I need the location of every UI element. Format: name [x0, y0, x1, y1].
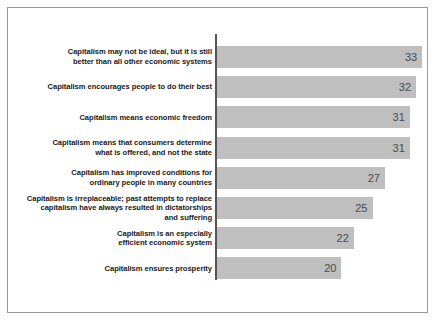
bar-value-label: 32 — [399, 82, 411, 93]
category-label: Capitalism is irreplaceable; past attemp… — [27, 194, 212, 223]
bar-value-label: 27 — [368, 172, 380, 183]
bar-row: Capitalism means economic freedom31 — [8, 106, 427, 128]
bar-row: Capitalism is an especially efficient ec… — [8, 227, 427, 249]
bar: 27 — [217, 167, 385, 189]
bar-value-label: 31 — [393, 112, 405, 123]
bar: 25 — [217, 197, 373, 219]
chart-screenshot: Capitalism may not be ideal, but it is s… — [0, 0, 437, 322]
category-label: Capitalism ensures prosperity — [105, 264, 212, 274]
plot-area: Capitalism may not be ideal, but it is s… — [8, 34, 427, 294]
bar-value-label: 31 — [393, 142, 405, 153]
category-label: Capitalism means that consumers determin… — [52, 138, 212, 157]
bar: 22 — [217, 227, 354, 249]
bar-row: Capitalism ensures prosperity20 — [8, 257, 427, 279]
bar-row: Capitalism encourages people to do their… — [8, 76, 427, 98]
bar: 32 — [217, 76, 416, 98]
bar: 31 — [217, 106, 410, 128]
bar: 31 — [217, 137, 410, 159]
category-label: Capitalism encourages people to do their… — [48, 82, 212, 92]
bar-row: Capitalism means that consumers determin… — [8, 137, 427, 159]
bar: 33 — [217, 46, 422, 68]
category-label: Capitalism means economic freedom — [79, 113, 212, 123]
bar: 20 — [217, 257, 341, 279]
category-label: Capitalism is an especially efficient ec… — [117, 229, 212, 248]
bar-value-label: 25 — [355, 203, 367, 214]
bar-value-label: 20 — [324, 263, 336, 274]
bar-row: Capitalism has improved conditions for o… — [8, 167, 427, 189]
bar-row: Capitalism is irreplaceable; past attemp… — [8, 197, 427, 219]
bar-row: Capitalism may not be ideal, but it is s… — [8, 46, 427, 68]
category-label: Capitalism has improved conditions for o… — [71, 168, 212, 187]
bar-value-label: 33 — [405, 52, 417, 63]
chart-frame-border: Capitalism may not be ideal, but it is s… — [7, 7, 428, 313]
bar-value-label: 22 — [337, 233, 349, 244]
category-label: Capitalism may not be ideal, but it is s… — [68, 47, 212, 66]
